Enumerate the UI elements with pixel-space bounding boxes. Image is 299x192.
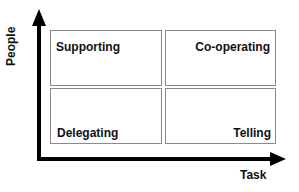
quadrant-co-operating: Co-operating <box>165 30 276 86</box>
quadrant-delegating: Delegating <box>50 88 162 144</box>
arrow-right-icon <box>270 152 286 166</box>
y-axis-line <box>37 22 41 161</box>
x-axis-label: Task <box>240 168 266 182</box>
x-axis-line <box>37 157 277 161</box>
quadrant-label: Delegating <box>57 126 118 140</box>
arrow-up-icon <box>32 9 46 26</box>
quadrant-label: Telling <box>233 126 271 140</box>
quadrant-label: Co-operating <box>195 40 270 54</box>
quadrant-supporting: Supporting <box>50 30 162 86</box>
y-axis-label: People <box>4 27 18 66</box>
quadrant-label: Supporting <box>56 40 120 54</box>
quadrant-telling: Telling <box>165 88 276 144</box>
